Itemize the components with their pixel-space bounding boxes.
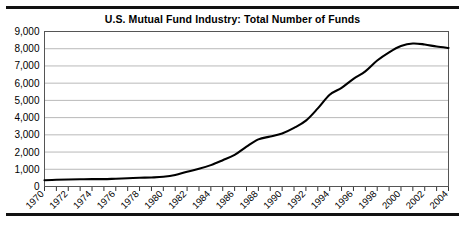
x-axis-tick-label: 1990 xyxy=(261,188,284,211)
y-axis-tick-label: 2,000 xyxy=(14,147,39,158)
x-axis-tick-label: 1980 xyxy=(142,188,165,211)
y-axis-tick-label: 3,000 xyxy=(14,129,39,140)
x-axis-tick-label: 1986 xyxy=(213,188,236,211)
x-axis-tick-label: 1998 xyxy=(356,188,379,211)
x-axis-tick-label: 1970 xyxy=(23,188,46,211)
y-axis-tick-label: 7,000 xyxy=(14,60,39,71)
x-axis-tick-labels: 1970197219741976197819801982198419861988… xyxy=(23,188,450,211)
x-axis-tick-label: 1992 xyxy=(285,188,308,211)
x-axis-tick-label: 1994 xyxy=(308,188,331,211)
x-axis-tick-label: 2004 xyxy=(427,188,450,211)
y-axis-tick-label: 6,000 xyxy=(14,78,39,89)
x-axis-tick-label: 1982 xyxy=(166,188,189,211)
x-axis-tick-label: 1996 xyxy=(332,188,355,211)
series-line-total-number-of-funds xyxy=(45,43,449,180)
x-axis-tick-label: 1972 xyxy=(47,188,70,211)
x-axis-tick-label: 1976 xyxy=(94,188,117,211)
line-chart-plot: 01,0002,0003,0004,0005,0006,0007,0008,00… xyxy=(0,0,465,228)
x-axis-tick-marks xyxy=(45,187,449,192)
y-axis-tick-labels: 01,0002,0003,0004,0005,0006,0007,0008,00… xyxy=(14,26,39,192)
bottom-divider-rule xyxy=(6,213,459,216)
x-axis-tick-label: 2002 xyxy=(403,188,426,211)
y-axis-tick-label: 1,000 xyxy=(14,164,39,175)
x-axis-tick-label: 1984 xyxy=(190,188,213,211)
x-axis-tick-label: 2000 xyxy=(380,188,403,211)
y-axis-tick-label: 5,000 xyxy=(14,95,39,106)
y-axis-tick-label: 9,000 xyxy=(14,26,39,37)
plot-area-frame xyxy=(45,32,449,187)
x-axis-tick-label: 1988 xyxy=(237,188,260,211)
x-axis-tick-label: 1978 xyxy=(118,188,141,211)
y-axis-tick-label: 4,000 xyxy=(14,112,39,123)
chart-figure: U.S. Mutual Fund Industry: Total Number … xyxy=(0,0,465,228)
y-axis-tick-label: 8,000 xyxy=(14,43,39,54)
x-axis-tick-label: 1974 xyxy=(71,188,94,211)
